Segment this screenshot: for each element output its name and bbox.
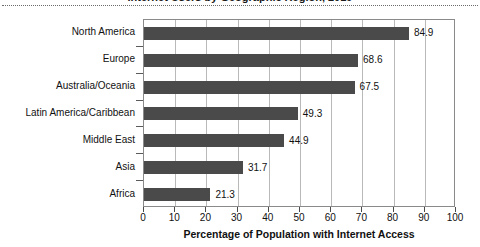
bar-value-label: 44.9 [289, 136, 308, 146]
category-label: Australia/Oceania [0, 81, 135, 91]
chart-screenshot: Internet Users by Geographic Region, 201… [0, 0, 480, 247]
bar-row: 84.9 [144, 20, 454, 47]
x-axis-tick-label: 10 [159, 213, 189, 223]
y-axis-tick [136, 73, 143, 74]
bar-value-label: 31.7 [248, 163, 267, 173]
x-axis-tick-label: 70 [346, 213, 376, 223]
x-axis-title: Percentage of Population with Internet A… [143, 229, 455, 240]
y-axis-tick [136, 100, 143, 101]
bar [144, 27, 409, 40]
bar-value-label: 67.5 [360, 82, 379, 92]
y-axis-tick [136, 126, 143, 127]
x-axis-tick-label: 40 [253, 213, 283, 223]
plot-area: 84.968.667.549.344.931.721.3 [143, 19, 455, 207]
bar [144, 134, 284, 147]
bar-row: 49.3 [144, 101, 454, 128]
x-axis-tick-label: 60 [315, 213, 345, 223]
x-axis-tick-label: 80 [378, 213, 408, 223]
bar-value-label: 84.9 [414, 28, 433, 38]
category-label: Europe [0, 54, 135, 64]
category-label: Middle East [0, 135, 135, 145]
chart-title-cropped: Internet Users by Geographic Region, 201… [0, 0, 480, 3]
x-axis-tick-label: 0 [128, 213, 158, 223]
bar-value-label: 49.3 [303, 109, 322, 119]
bar [144, 161, 243, 174]
category-label: North America [0, 27, 135, 37]
bar-row: 31.7 [144, 154, 454, 181]
bar-value-label: 21.3 [215, 190, 234, 200]
bar [144, 188, 210, 201]
bar-row: 21.3 [144, 181, 454, 208]
bar [144, 54, 358, 67]
dotted-divider [2, 5, 478, 6]
x-axis-tick-label: 90 [409, 213, 439, 223]
x-axis-tick-label: 20 [190, 213, 220, 223]
bar-row: 67.5 [144, 74, 454, 101]
bar-row: 44.9 [144, 127, 454, 154]
bar-row: 68.6 [144, 47, 454, 74]
x-axis-tick-label: 30 [222, 213, 252, 223]
category-label: Asia [0, 162, 135, 172]
bar-value-label: 68.6 [363, 55, 382, 65]
y-axis-tick [136, 46, 143, 47]
x-axis-tick-label: 100 [440, 213, 470, 223]
x-axis-tick-label: 50 [284, 213, 314, 223]
bar [144, 107, 298, 120]
y-axis-tick [136, 180, 143, 181]
category-label: Africa [0, 189, 135, 199]
bar [144, 81, 355, 94]
y-axis-tick [136, 153, 143, 154]
category-label: Latin America/Caribbean [0, 108, 135, 118]
